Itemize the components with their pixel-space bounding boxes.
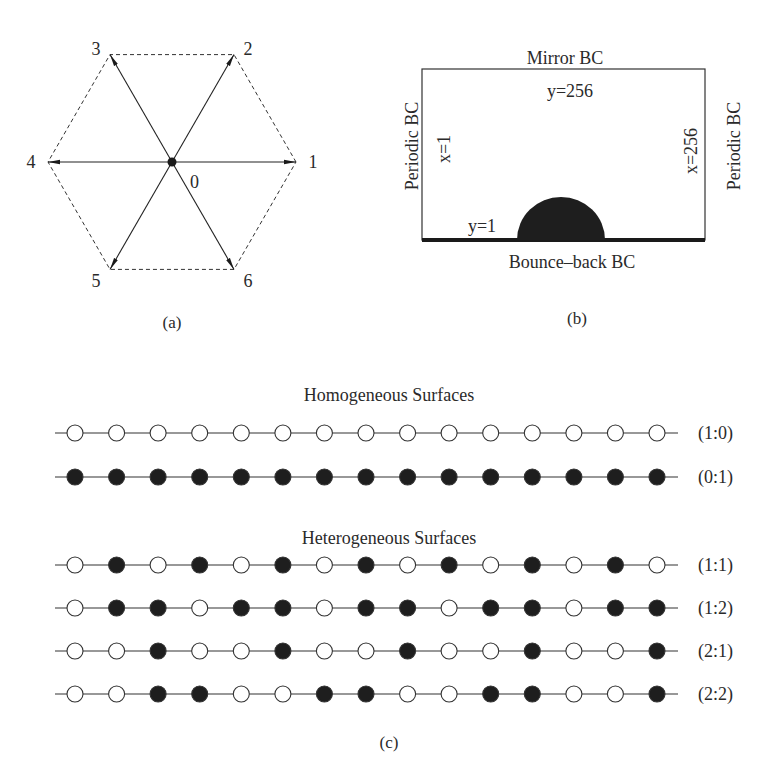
open-site [275, 425, 291, 441]
ratio-label: (0:1) [698, 467, 733, 488]
open-site [233, 557, 249, 573]
panel-b-caption: (b) [567, 309, 587, 328]
filled-site [150, 469, 166, 485]
figure: 123456 0 (a) Mirror BC y=256 y=1 Bounce–… [0, 0, 777, 773]
filled-site [607, 469, 623, 485]
filled-site [566, 469, 582, 485]
filled-site [358, 600, 374, 616]
filled-site [150, 643, 166, 659]
filled-site [607, 600, 623, 616]
filled-site [316, 686, 332, 702]
direction-label-5: 5 [92, 271, 101, 291]
filled-site [524, 686, 540, 702]
filled-site [275, 469, 291, 485]
filled-site [109, 557, 125, 573]
open-site [441, 643, 457, 659]
open-site [483, 425, 499, 441]
droplet [517, 197, 605, 240]
open-site [607, 643, 623, 659]
open-site [67, 643, 83, 659]
heterogeneous-title: Heterogeneous Surfaces [302, 528, 476, 548]
open-site [316, 600, 332, 616]
filled-site [649, 600, 665, 616]
panel-a-lattice: 123456 0 (a) [27, 39, 318, 332]
surface-row: (1:2) [55, 598, 733, 619]
filled-site [649, 469, 665, 485]
direction-label-4: 4 [27, 152, 36, 172]
center-label: 0 [190, 172, 199, 192]
filled-site [400, 643, 416, 659]
open-site [400, 686, 416, 702]
ratio-label: (2:2) [698, 684, 733, 705]
open-site [566, 557, 582, 573]
homogeneous-title: Homogeneous Surfaces [304, 385, 474, 405]
filled-site [649, 686, 665, 702]
left-coord-label: x=1 [434, 135, 454, 163]
ratio-label: (2:1) [698, 641, 733, 662]
ratio-label: (1:2) [698, 598, 733, 619]
surface-row: (2:2) [55, 684, 733, 705]
surface-row: (1:1) [55, 555, 733, 576]
bottom-coord-label: y=1 [468, 216, 496, 236]
open-site [67, 425, 83, 441]
open-site [441, 686, 457, 702]
filled-site [275, 557, 291, 573]
filled-site [275, 643, 291, 659]
velocity-arrow-6 [172, 162, 234, 269]
filled-site [441, 469, 457, 485]
filled-site [150, 686, 166, 702]
filled-site [109, 600, 125, 616]
filled-site [192, 557, 208, 573]
filled-site [483, 600, 499, 616]
filled-site [400, 600, 416, 616]
open-site [566, 686, 582, 702]
filled-site [150, 600, 166, 616]
filled-site [524, 643, 540, 659]
direction-label-1: 1 [309, 152, 318, 172]
panel-a-caption: (a) [163, 313, 182, 332]
filled-site [192, 469, 208, 485]
filled-site [358, 686, 374, 702]
open-site [316, 557, 332, 573]
filled-site [607, 557, 623, 573]
open-site [441, 600, 457, 616]
open-site [607, 425, 623, 441]
filled-site [233, 600, 249, 616]
open-site [441, 425, 457, 441]
velocity-arrow-2 [172, 55, 234, 162]
filled-site [316, 469, 332, 485]
filled-site [524, 600, 540, 616]
open-site [233, 425, 249, 441]
open-site [358, 425, 374, 441]
ratio-label: (1:0) [698, 423, 733, 444]
open-site [233, 643, 249, 659]
right-coord-label: x=256 [681, 128, 701, 174]
velocity-arrow-3 [110, 55, 172, 162]
filled-site [67, 469, 83, 485]
open-site [67, 686, 83, 702]
open-site [566, 425, 582, 441]
open-site [192, 643, 208, 659]
open-site [192, 425, 208, 441]
ratio-label: (1:1) [698, 555, 733, 576]
open-site [400, 557, 416, 573]
open-site [192, 600, 208, 616]
surface-row: (2:1) [55, 641, 733, 662]
filled-site [441, 557, 457, 573]
open-site [233, 686, 249, 702]
center-node [168, 158, 177, 167]
filled-site [483, 469, 499, 485]
open-site [109, 686, 125, 702]
filled-site [649, 643, 665, 659]
open-site [566, 643, 582, 659]
open-site [400, 425, 416, 441]
right-periodic-bc-label: Periodic BC [724, 102, 744, 191]
left-periodic-bc-label: Periodic BC [402, 102, 422, 191]
open-site [607, 686, 623, 702]
mirror-bc-label: Mirror BC [527, 48, 604, 68]
open-site [67, 557, 83, 573]
filled-site [483, 686, 499, 702]
filled-site [358, 557, 374, 573]
filled-site [233, 469, 249, 485]
open-site [483, 643, 499, 659]
